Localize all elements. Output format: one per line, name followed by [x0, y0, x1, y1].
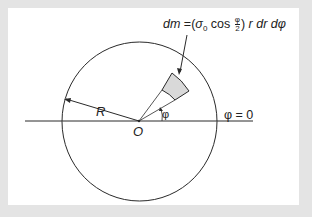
fraction-denominator: 2: [235, 25, 240, 33]
wedge-line-upper: [139, 90, 162, 121]
formula-fraction: φ2: [235, 16, 240, 33]
reference-label: φ = 0: [224, 108, 253, 122]
origin-point: [138, 120, 140, 122]
mass-element: [162, 73, 189, 100]
mass-element-formula: dm =(σ0 cos φ2) r dr dφ: [163, 16, 286, 33]
formula-lhs: dm: [163, 17, 180, 31]
formula-sigma: σ: [195, 17, 203, 31]
formula-rest: r dr dφ: [249, 17, 286, 31]
wedge-line-lower: [139, 100, 175, 121]
label-pointer-arrowhead-icon: [177, 68, 182, 75]
radius-label: R: [96, 104, 105, 119]
formula-sigma-subscript: 0: [203, 24, 207, 33]
angle-label: φ: [162, 108, 169, 120]
label-pointer-line: [180, 35, 187, 72]
formula-cos: cos: [211, 17, 230, 31]
origin-label: O: [133, 124, 143, 139]
formula-close-paren: ): [241, 17, 245, 31]
